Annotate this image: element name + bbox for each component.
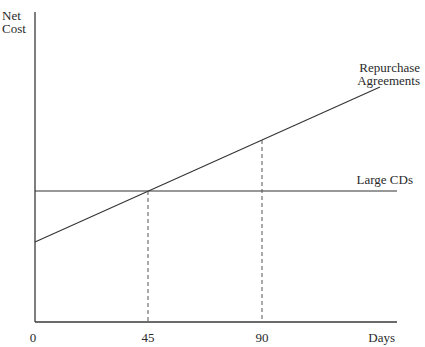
repurchase-agreements-line — [35, 87, 380, 242]
x-tick-0: 0 — [30, 330, 37, 345]
net-cost-chart: Net Cost Repurchase Agreements Large CDs… — [0, 0, 425, 347]
large-cds-label: Large CDs — [357, 172, 413, 187]
x-tick-90: 90 — [256, 330, 269, 345]
y-axis-label-line2: Cost — [2, 21, 26, 36]
repurchase-label-line2: Agreements — [357, 73, 420, 88]
x-axis-label: Days — [368, 330, 395, 345]
x-tick-45: 45 — [142, 330, 155, 345]
